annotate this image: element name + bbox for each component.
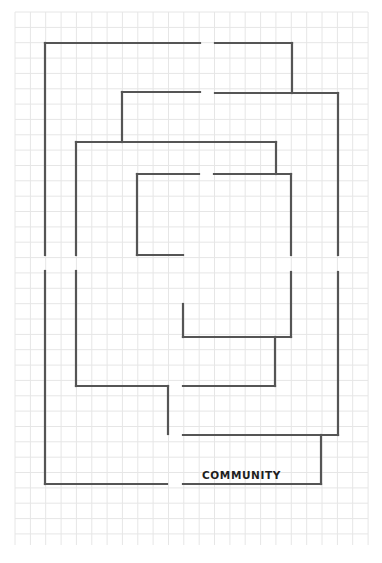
maze-diagram: COMMUNITY (0, 0, 382, 563)
maze-walls (45, 43, 338, 484)
community-label: COMMUNITY (202, 469, 281, 481)
